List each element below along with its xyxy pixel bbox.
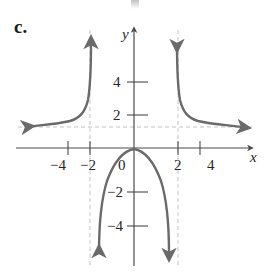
y-tick-label-neg2: −2 <box>107 185 123 200</box>
x-axis-label: x <box>250 150 257 165</box>
x-tick-label-neg2: −2 <box>80 158 96 173</box>
x-tick-label-neg4: −4 <box>50 158 66 173</box>
x-tick-label-pos2: 2 <box>174 158 182 173</box>
curve-left-branch <box>26 44 91 127</box>
y-axis-label: y <box>122 27 129 42</box>
curve-right-branch <box>177 44 242 127</box>
x-tick-label-pos4: 4 <box>207 158 215 173</box>
graph-figure: c. <box>0 0 268 280</box>
y-tick-label-pos4: 4 <box>113 75 121 90</box>
y-tick-label-neg4: −4 <box>107 219 123 234</box>
origin-label: 0 <box>118 158 126 173</box>
plot-canvas <box>0 0 268 280</box>
y-tick-label-pos2: 2 <box>113 108 121 123</box>
